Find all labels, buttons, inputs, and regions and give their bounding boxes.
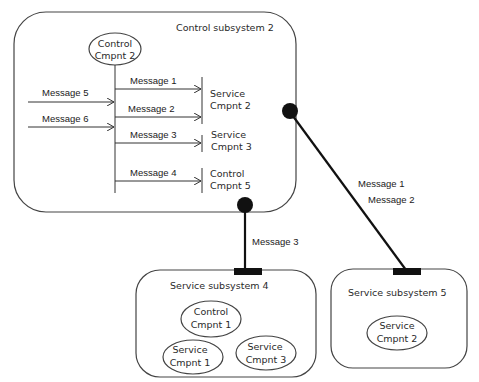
- message-4-label: Message 4: [130, 167, 176, 178]
- component-3-line1: Service: [247, 341, 282, 352]
- service-subsystem-4-label: Service subsystem 4: [170, 280, 269, 291]
- control-cmpnt-2-line2: Cmpnt 2: [95, 50, 136, 61]
- component-2-line1: Service: [172, 344, 207, 355]
- connector-to-subsystem-5: Message 1 Message 2: [282, 103, 414, 270]
- component-s5-line2: Cmpnt 2: [377, 333, 418, 344]
- service-subsystem-4: Service subsystem 4 Control Cmpnt 1 Serv…: [136, 268, 316, 377]
- connector-to-subsystem-4: Message 3: [237, 197, 298, 270]
- message-1-label: Message 1: [130, 75, 176, 86]
- port-rect-subsystem-4: [234, 268, 262, 275]
- target-1-line2: Cmpnt 2: [210, 100, 251, 111]
- connector-5-label-1: Message 1: [358, 178, 404, 189]
- service-subsystem-5: Service subsystem 5 Service Cmpnt 2: [331, 268, 467, 368]
- message-5-label: Message 5: [42, 87, 88, 98]
- control-cmpnt-2-line1: Control: [98, 38, 132, 49]
- connector-5-label-2: Message 2: [368, 194, 414, 205]
- connector-4-label: Message 3: [252, 236, 298, 247]
- message-6-label: Message 6: [42, 113, 88, 124]
- port-circle-right: [282, 103, 298, 119]
- control-subsystem-label: Control subsystem 2: [176, 22, 274, 33]
- component-1-line2: Cmpnt 1: [191, 319, 232, 330]
- component-s5-line1: Service: [379, 320, 414, 331]
- architecture-diagram: Control subsystem 2 Control Cmpnt 2 Mess…: [0, 0, 479, 382]
- target-2-line2: Cmpnt 3: [211, 141, 252, 152]
- port-circle-bottom: [237, 197, 253, 213]
- target-3-line2: Cmpnt 5: [210, 180, 251, 191]
- service-subsystem-5-label: Service subsystem 5: [348, 287, 447, 298]
- target-2-line1: Service: [211, 129, 246, 140]
- target-3-line1: Control: [210, 168, 244, 179]
- service-subsystem-5-box: [331, 269, 467, 368]
- message-3-label: Message 3: [130, 129, 176, 140]
- diagonal-connector-line: [290, 112, 406, 270]
- target-1-line1: Service: [210, 88, 245, 99]
- message-2-label: Message 2: [128, 103, 174, 114]
- port-rect-subsystem-5: [393, 268, 421, 275]
- component-3-line2: Cmpnt 3: [246, 354, 287, 365]
- component-1-line1: Control: [194, 306, 228, 317]
- control-subsystem-2: Control subsystem 2 Control Cmpnt 2 Mess…: [14, 12, 296, 212]
- component-2-line2: Cmpnt 1: [170, 357, 211, 368]
